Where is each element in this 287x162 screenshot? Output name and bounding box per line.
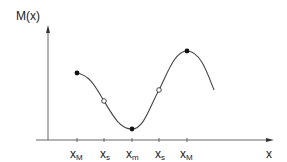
x-axis-label: x: [266, 148, 272, 160]
tick-label-xs-right: xs: [155, 148, 165, 162]
diagram-canvas: [0, 0, 287, 162]
max-point-left: [75, 71, 80, 76]
y-axis-label: M(x): [16, 10, 40, 22]
min-point: [130, 127, 135, 132]
tick-label-xs-left: xs: [100, 148, 110, 162]
max-point-right: [185, 49, 190, 54]
tick-sub: M: [76, 153, 83, 162]
m-of-x-curve: [77, 51, 214, 129]
tick-label-xM-left: xM: [70, 148, 83, 162]
tick-label-xM-right: xM: [180, 148, 193, 162]
x-axis-arrow-icon: [266, 138, 274, 142]
tick-sub: s: [106, 153, 110, 162]
tick-label-xm: xm: [126, 148, 139, 162]
inflection-point-left: [102, 99, 107, 104]
tick-sub: s: [161, 153, 165, 162]
inflection-point-right: [157, 88, 162, 93]
tick-sub: m: [132, 153, 139, 162]
tick-sub: M: [186, 153, 193, 162]
y-axis-arrow-icon: [46, 25, 50, 33]
